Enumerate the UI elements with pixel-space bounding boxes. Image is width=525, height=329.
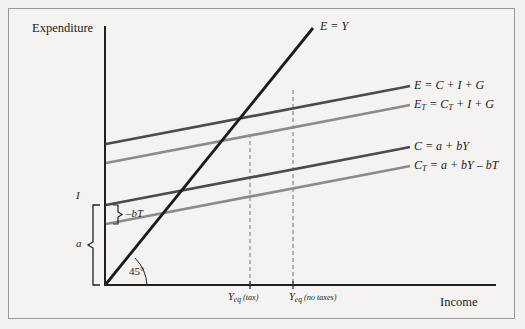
curve-label-ct-main: C (414, 158, 422, 172)
bracket-label-tax-effect: –bT (126, 208, 143, 219)
bracket-label-autonomous-consumption: a (76, 238, 82, 249)
leader-e-line (400, 86, 410, 88)
y-axis-label: Expenditure (32, 22, 93, 35)
leader-et-line (400, 105, 410, 107)
curve-label-ct-tail: = a + bY – bT (427, 158, 499, 172)
bracket-label-investment: I (76, 190, 80, 201)
curve-label-e-text: E = C + I + G (414, 78, 484, 92)
forty-five-line-label: E = Y (320, 20, 348, 32)
curve-label-et-tail: + I + G (453, 97, 494, 111)
x-tick-1-sub: eq (295, 295, 302, 304)
x-tick-label-y-eq-tax: Yeq (tax) (228, 292, 258, 303)
x-tick-0-sub: eq (234, 295, 241, 304)
x-axis-label: Income (440, 296, 477, 309)
leader-ct-line (400, 166, 410, 168)
curve-label-et-mid: = C (426, 97, 448, 111)
angle-label: 45° (129, 266, 144, 277)
x-tick-1-paren: (no taxes) (302, 293, 337, 302)
curve-label-e: E = C + I + G (414, 79, 484, 91)
curve-label-c: C = a + bY (414, 140, 469, 152)
curve-label-ct: CT = a + bY – bT (414, 159, 498, 173)
figure-container: Expenditure Income 45° E = Y E = C + I +… (0, 0, 525, 329)
curve-label-c-text: C = a + bY (414, 139, 469, 153)
curve-label-et: ET = CT + I + G (414, 98, 494, 112)
x-tick-0-paren: (tax) (241, 293, 258, 302)
leader-c-line (400, 147, 410, 149)
x-tick-label-y-eq-no-taxes: Yeq (no taxes) (289, 292, 336, 303)
bracket-autonomous-consumption (88, 205, 100, 285)
